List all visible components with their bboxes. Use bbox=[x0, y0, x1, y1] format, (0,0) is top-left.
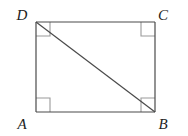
vertex-labels-group: D C A B bbox=[16, 7, 169, 132]
vertex-label-a: A bbox=[16, 116, 27, 132]
vertex-label-b: B bbox=[158, 116, 167, 132]
vertex-label-c: C bbox=[158, 7, 169, 23]
right-angle-mark-c bbox=[141, 22, 155, 36]
vertex-label-d: D bbox=[16, 7, 28, 23]
figure-svg: D C A B bbox=[0, 0, 188, 136]
geometry-figure-canvas: D C A B bbox=[0, 0, 188, 136]
diagonal-db bbox=[36, 22, 155, 112]
right-angle-mark-a bbox=[36, 98, 50, 112]
